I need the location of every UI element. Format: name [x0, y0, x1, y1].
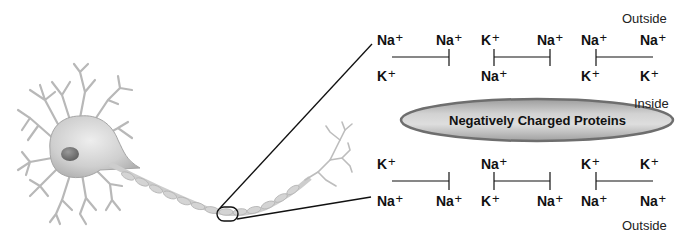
ion-label: Na+ — [481, 68, 507, 85]
soma — [50, 116, 140, 178]
ion-label: Na+ — [436, 193, 462, 210]
axon — [110, 164, 310, 216]
ion-label: Na+ — [581, 193, 607, 210]
top-membrane — [392, 49, 653, 66]
ion-label: K+ — [581, 156, 599, 173]
diagram-canvas: Outside Inside Outside Negatively Charge… — [0, 0, 683, 241]
ion-label: Na+ — [481, 156, 507, 173]
proteins-label: Negatively Charged Proteins — [400, 101, 675, 139]
ion-label: Na+ — [537, 193, 563, 210]
ion-label: K+ — [640, 68, 658, 85]
ion-label: Na+ — [581, 32, 607, 49]
ion-label: Na+ — [640, 193, 666, 210]
ion-label: Na+ — [436, 32, 462, 49]
ion-label: Na+ — [377, 193, 403, 210]
axon-terminals — [305, 122, 352, 186]
ion-label: K+ — [481, 32, 499, 49]
ion-label: Na+ — [640, 32, 666, 49]
ion-label: Na+ — [377, 32, 403, 49]
ion-label: K+ — [640, 156, 658, 173]
nucleus — [61, 147, 79, 161]
ion-label: K+ — [377, 156, 395, 173]
outside-label-top: Outside — [622, 11, 667, 26]
ion-label: K+ — [581, 68, 599, 85]
outside-label-bottom: Outside — [622, 218, 667, 233]
ion-label: K+ — [481, 193, 499, 210]
bottom-membrane — [392, 172, 653, 190]
ion-label: K+ — [377, 68, 395, 85]
ion-label: Na+ — [537, 32, 563, 49]
